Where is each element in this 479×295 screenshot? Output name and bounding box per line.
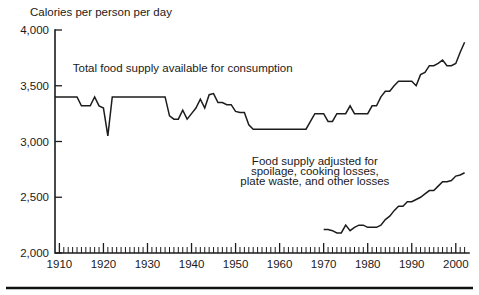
y-axis-tick-labels: 2,0002,5003,0003,5004,000 — [20, 24, 49, 259]
food-supply-line-chart: 2,0002,5003,0003,5004,000 19101920193019… — [0, 0, 479, 295]
y-tick-label: 2,500 — [20, 191, 49, 203]
chart-figure: 2,0002,5003,0003,5004,000 19101920193019… — [0, 0, 479, 295]
x-tick-label: 1990 — [399, 258, 425, 270]
x-tick-label: 1910 — [47, 258, 73, 270]
x-tick-label: 1960 — [267, 258, 293, 270]
y-tick-label: 4,000 — [20, 24, 49, 36]
x-tick-label: 2000 — [443, 258, 469, 270]
x-tick-label: 1970 — [311, 258, 337, 270]
x-tick-label: 1920 — [91, 258, 117, 270]
x-tick-label: 1980 — [355, 258, 381, 270]
y-tick-label: 2,000 — [20, 247, 49, 259]
chart-title: Calories per person per day — [30, 6, 172, 18]
total-supply-label: Total food supply available for consumpt… — [73, 62, 293, 74]
adjusted-supply-label-line3: plate waste, and other losses — [240, 175, 389, 187]
x-tick-label: 1940 — [179, 258, 205, 270]
x-tick-label: 1950 — [223, 258, 249, 270]
x-axis-tick-labels: 1910192019301940195019601970198019902000 — [47, 258, 469, 270]
y-axis-ticks — [55, 30, 62, 253]
chart-annotations: Total food supply available for consumpt… — [73, 62, 390, 187]
x-tick-label: 1930 — [135, 258, 161, 270]
x-axis-ticks — [59, 243, 464, 253]
y-tick-label: 3,500 — [20, 80, 49, 92]
series-total-food-supply — [55, 42, 465, 136]
y-tick-label: 3,000 — [20, 136, 49, 148]
